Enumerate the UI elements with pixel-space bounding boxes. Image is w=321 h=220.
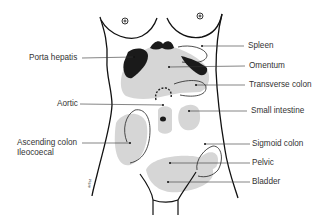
- label-omentum: Omentum: [249, 61, 285, 70]
- sigmoid-region: [200, 152, 218, 170]
- small-intestine-region: [178, 105, 200, 131]
- label-bladder: Bladder: [252, 177, 280, 186]
- label-aortic: Aortic: [57, 99, 78, 108]
- label-porta-hepatis: Porta hepatis: [29, 53, 77, 62]
- label-pelvic: Pelvic: [252, 158, 274, 167]
- label-transverse-colon: Transverse colon: [249, 80, 312, 89]
- signature: artist: [86, 178, 93, 188]
- nipple-icons: [122, 13, 203, 24]
- label-small-intestine: Small intestine: [251, 106, 304, 115]
- label-spleen: Spleen: [248, 41, 274, 50]
- label-ileocoecal: Ileocoecal: [17, 148, 54, 157]
- label-ascending-colon: Ascending colon: [17, 138, 77, 147]
- label-sigmoid-colon: Sigmoid colon: [252, 139, 303, 148]
- ascending-colon-region: [115, 114, 148, 165]
